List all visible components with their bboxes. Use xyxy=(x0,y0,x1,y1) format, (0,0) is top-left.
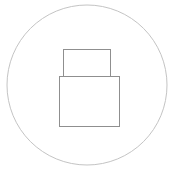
bottom-rectangle xyxy=(60,77,120,127)
outer-circle xyxy=(7,5,167,165)
top-rectangle xyxy=(64,50,111,77)
sketched-device-icon xyxy=(0,0,172,171)
